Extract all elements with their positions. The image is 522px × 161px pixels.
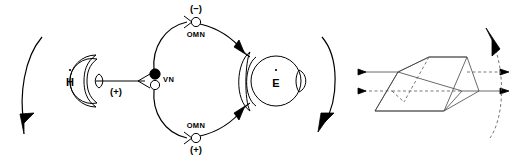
afferent-pathway: (+) xyxy=(95,74,150,97)
upper-oculomotor-pathway: (−) OMN xyxy=(154,3,250,70)
eye-overdot xyxy=(275,69,277,71)
diagram-canvas: H (+) VN (−) OMN xyxy=(0,0,522,161)
upper-nerve-label: OMN xyxy=(187,30,206,39)
optical-prism xyxy=(358,57,509,111)
inhibitory-neuron-node xyxy=(150,80,159,89)
excitatory-neuron-node xyxy=(150,69,160,79)
head-overdot xyxy=(69,69,71,71)
vor-pathway-diagram: H (+) VN (−) OMN xyxy=(0,0,522,161)
eye-globe: E xyxy=(239,52,306,111)
lower-nerve-label: OMN xyxy=(187,121,206,130)
eye-rotation-arc-arrow xyxy=(318,37,335,132)
head-labyrinth: H xyxy=(66,55,97,107)
head-rotation-arc-arrow xyxy=(20,37,42,134)
vestibular-nucleus: VN xyxy=(150,69,174,90)
head-label: H xyxy=(66,76,74,88)
vestibular-nucleus-label: VN xyxy=(163,75,174,84)
head-polarity-label: (+) xyxy=(110,86,122,97)
prism-rotation-arc-arrow xyxy=(486,28,502,138)
lower-oculomotor-pathway: OMN (+) xyxy=(154,90,250,155)
upper-sign-label: (−) xyxy=(190,3,202,14)
eye-label: E xyxy=(272,77,279,89)
lower-sign-label: (+) xyxy=(190,144,202,155)
